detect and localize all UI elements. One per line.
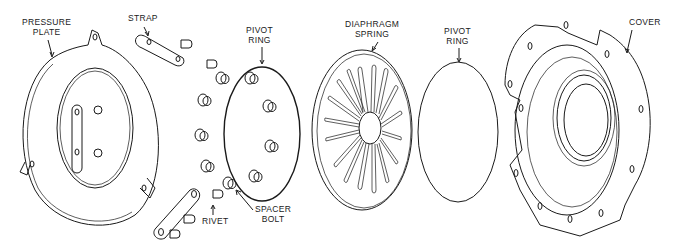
label-diaphragm-spring-line1: DIAPHRAGM xyxy=(345,19,399,29)
label-cover-text: COVER xyxy=(629,17,661,27)
diagram-drawing xyxy=(0,0,677,244)
label-strap: STRAP xyxy=(128,13,158,23)
label-strap-text: STRAP xyxy=(128,13,158,23)
label-rivet: RIVET xyxy=(202,216,229,226)
label-pivot-ring-right-line1: PIVOT xyxy=(444,26,471,36)
strap-top xyxy=(135,35,183,66)
cover xyxy=(505,22,650,237)
label-pivot-ring-left: PIVOT RING xyxy=(246,25,273,45)
strap-bottom xyxy=(154,189,200,239)
label-rivet-text: RIVET xyxy=(202,216,229,226)
label-pressure-plate-line2: PLATE xyxy=(22,27,71,37)
diaphragm-spring xyxy=(312,50,412,210)
label-spacer-bolt: SPACER BOLT xyxy=(255,204,291,224)
clutch-exploded-diagram: PRESSURE PLATE STRAP PIVOT RING DIAPHRAG… xyxy=(0,0,677,244)
pivot-ring-right xyxy=(418,62,498,202)
label-diaphragm-spring: DIAPHRAGM SPRING xyxy=(345,19,399,39)
pivot-ring-left xyxy=(224,67,300,201)
label-spacer-bolt-line1: SPACER xyxy=(255,204,291,214)
label-spacer-bolt-line2: BOLT xyxy=(255,214,291,224)
label-pivot-ring-right-line2: RING xyxy=(444,36,471,46)
label-pressure-plate-line1: PRESSURE xyxy=(22,17,71,27)
label-pivot-ring-left-line2: RING xyxy=(246,35,273,45)
label-diaphragm-spring-line2: SPRING xyxy=(345,29,399,39)
label-pressure-plate: PRESSURE PLATE xyxy=(22,17,71,37)
label-pivot-ring-left-line1: PIVOT xyxy=(246,25,273,35)
label-cover: COVER xyxy=(629,17,661,27)
label-pivot-ring-right: PIVOT RING xyxy=(444,26,471,46)
pressure-plate xyxy=(20,30,158,225)
